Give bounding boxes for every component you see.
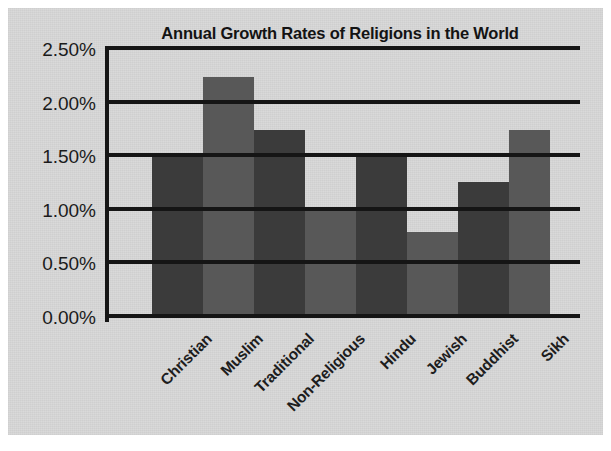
- y-tick-label: 1.50%: [42, 146, 96, 168]
- bar-sikh: [509, 130, 550, 318]
- bar-hindu: [356, 157, 407, 318]
- gridline-2-50: [105, 46, 580, 50]
- bar-series: [109, 50, 546, 318]
- plot-area: [105, 50, 546, 318]
- y-tick-label: 0.00%: [42, 307, 96, 329]
- x-tick-label-christian: Christian: [157, 330, 216, 389]
- bar-christian: [152, 157, 203, 318]
- chart-title: Annual Growth Rates of Religions in the …: [105, 24, 575, 43]
- y-tick-label: 1.00%: [42, 200, 96, 222]
- y-tick-label: 0.50%: [42, 253, 96, 275]
- x-tick-label-muslim: Muslim: [217, 330, 267, 380]
- y-tick-label: 2.00%: [42, 93, 96, 115]
- y-axis-tick-labels: 2.50% 2.00% 1.50% 1.00% 0.50% 0.00%: [8, 50, 100, 318]
- gridline-1-00-stub: [546, 207, 580, 211]
- y-tick-label: 2.50%: [42, 39, 96, 61]
- gridline-1-50-stub: [546, 153, 580, 157]
- gridline-2-00-stub: [546, 100, 580, 104]
- chart-figure: Annual Growth Rates of Religions in the …: [0, 0, 611, 451]
- gridline-0-50-stub: [546, 260, 580, 264]
- x-axis-tick-labels: Christian Muslim Traditional Non-Religio…: [105, 318, 565, 438]
- gridline-0-50-inner: [105, 260, 546, 264]
- bar-buddhist: [458, 182, 509, 318]
- x-tick-label-jewish: Jewish: [422, 330, 470, 378]
- gridline-2-00-inner: [105, 100, 546, 104]
- x-tick-label-buddhist: Buddhist: [463, 330, 522, 389]
- bar-muslim: [203, 77, 254, 318]
- bar-jewish: [407, 232, 458, 318]
- gridline-1-00-inner: [105, 207, 546, 211]
- gridline-1-50-inner: [105, 153, 546, 157]
- bar-traditional: [254, 130, 305, 318]
- x-tick-label-hindu: Hindu: [377, 330, 420, 373]
